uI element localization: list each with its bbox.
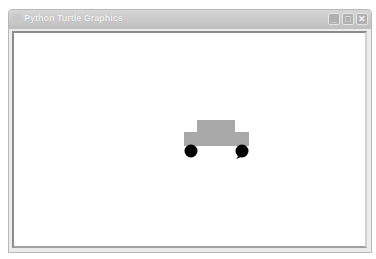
- maximize-button[interactable]: □: [342, 13, 354, 25]
- car-body: [184, 132, 249, 146]
- turtle-canvas[interactable]: [12, 31, 367, 248]
- window-title: Python Turtle Graphics: [24, 13, 123, 23]
- turtle-window: Python Turtle Graphics _ □ ✕: [8, 9, 372, 253]
- car-wheel-left: [185, 145, 198, 158]
- drawing-surface: [14, 33, 370, 252]
- car-wheel-right: [236, 145, 249, 158]
- car-roof: [197, 120, 235, 133]
- close-button[interactable]: ✕: [356, 13, 368, 25]
- app-icon: [13, 14, 22, 23]
- minimize-button[interactable]: _: [328, 13, 340, 25]
- title-bar[interactable]: Python Turtle Graphics _ □ ✕: [9, 10, 371, 29]
